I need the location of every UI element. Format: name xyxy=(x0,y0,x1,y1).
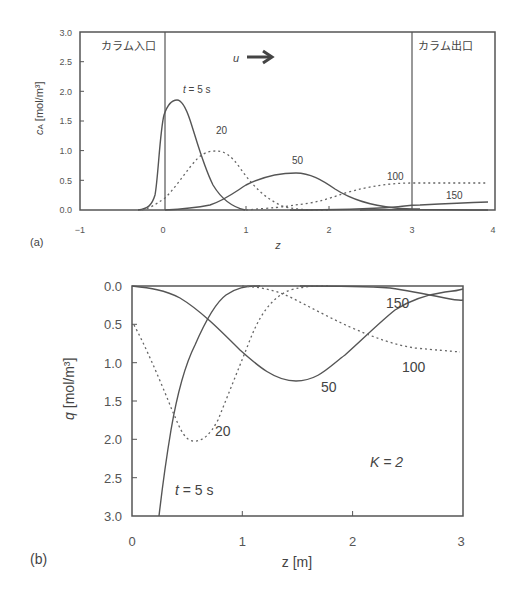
x-axis-label-a: z xyxy=(274,239,281,251)
x-tick-label: −1 xyxy=(75,225,85,235)
y-tick-label: 2.0 xyxy=(104,432,122,447)
curve-label-a-t20: 20 xyxy=(216,125,228,136)
curve-label-b-t150: 150 xyxy=(386,295,410,311)
y-tick-label: 2.5 xyxy=(59,57,72,67)
ylabel-q: q xyxy=(61,412,77,420)
y-tick-label: 3.0 xyxy=(104,509,122,524)
x-tick-label: 1 xyxy=(243,225,248,235)
y-tick-label: 0.0 xyxy=(59,205,72,215)
curve-label-b-t5: t = 5 s xyxy=(175,482,214,498)
column-entrance-label: カラム入口 xyxy=(101,40,156,53)
x-tick-label: 3 xyxy=(409,225,414,235)
panel-b: 0.0 0.5 1.0 1.5 2.0 2.5 3.0 0 1 2 3 t = … xyxy=(30,279,465,570)
x-tick-label: 3 xyxy=(457,534,464,549)
curve-label-b-t20: 20 xyxy=(215,423,231,439)
curve-label-a-t100: 100 xyxy=(387,171,404,182)
curve-a-t150 xyxy=(290,202,488,210)
y-tick-label: 1.0 xyxy=(59,146,72,156)
y-axis-label-b: q[mol/m³] xyxy=(61,358,77,420)
y-tick-label: 1.5 xyxy=(104,394,122,409)
x-tick-label: 0 xyxy=(128,534,135,549)
flow-velocity-label: u xyxy=(233,52,239,64)
ylabel-sub: A xyxy=(36,124,45,130)
x-tick-label: 2 xyxy=(326,225,331,235)
y-tick-label: 2.0 xyxy=(59,87,72,97)
curve-a-t50 xyxy=(165,173,420,210)
figure: 0.0 0.5 1.0 1.5 2.0 2.5 3.0 −1 0 1 2 3 4… xyxy=(0,0,510,594)
panel-label-a: (a) xyxy=(30,236,43,248)
y-tick-label: 3.0 xyxy=(59,28,72,38)
curve-label-b-t50: 50 xyxy=(321,379,337,395)
panel-label-b: (b) xyxy=(30,551,47,567)
x-axis-label-b: z [m] xyxy=(282,554,312,570)
curve-b-t20 xyxy=(134,286,330,441)
curve-label-a-t5: t = 5 s xyxy=(183,84,211,95)
y-tick-label: 1.5 xyxy=(59,116,72,126)
y-tick-label: 2.5 xyxy=(104,471,122,486)
ylabel-unit: [mol/m³] xyxy=(61,358,77,409)
x-tick-label: 0 xyxy=(160,225,165,235)
t5-rest: = 5 s xyxy=(186,84,211,95)
parameter-label-k: K = 2 xyxy=(370,454,403,470)
x-tick-label: 1 xyxy=(239,534,246,549)
curve-label-b-t100: 100 xyxy=(402,359,426,375)
x-tick-label: 2 xyxy=(349,534,356,549)
y-tick-label: 0.5 xyxy=(59,176,72,186)
y-tick-label: 1.0 xyxy=(104,356,122,371)
panel-a: 0.0 0.5 1.0 1.5 2.0 2.5 3.0 −1 0 1 2 3 4… xyxy=(30,28,496,252)
ylabel-unit: [mol/m³] xyxy=(33,81,45,121)
plot-frame-a xyxy=(80,32,495,210)
y-tick-label: 0.0 xyxy=(104,279,122,294)
y-axis-label-a: cA[mol/m³] xyxy=(33,81,45,135)
y-tick-label: 0.5 xyxy=(104,317,122,332)
x-tick-label: 4 xyxy=(490,225,495,235)
flow-arrow-icon xyxy=(247,51,272,63)
curve-label-a-t150: 150 xyxy=(446,190,463,201)
column-exit-label: カラム出口 xyxy=(418,39,473,53)
curve-label-a-t50: 50 xyxy=(292,155,304,166)
